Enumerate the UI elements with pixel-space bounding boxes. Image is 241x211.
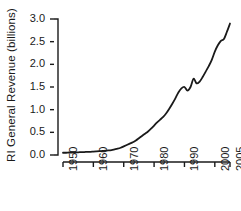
x-tick-label: 1970: [129, 147, 140, 171]
x-tick-label: 2000: [220, 147, 231, 171]
revenue-line-series: [63, 24, 230, 153]
x-tick-label: 2005: [235, 147, 241, 171]
x-tick-label: 1960: [98, 147, 109, 171]
y-tick-label: 1.0: [19, 104, 45, 115]
y-tick-label: 3.0: [19, 13, 45, 24]
y-tick-label: 1.5: [19, 81, 45, 92]
x-tick-label: 1950: [68, 147, 79, 171]
y-tick-label: 2.0: [19, 58, 45, 69]
y-axis-label-text: RI General Revenue (billions): [5, 8, 17, 162]
x-tick-label: 1990: [189, 147, 200, 171]
axis-spines: [54, 19, 230, 162]
x-axis-ticks: [63, 162, 230, 167]
y-tick-label: 2.5: [19, 36, 45, 47]
y-tick-label: 0.5: [19, 126, 45, 137]
x-tick-label: 1980: [159, 147, 170, 171]
chart-figure: RI General Revenue (billions) 0.00.51.01…: [0, 0, 241, 211]
y-tick-label: 0.0: [19, 149, 45, 160]
y-axis-ticks: [50, 19, 54, 155]
